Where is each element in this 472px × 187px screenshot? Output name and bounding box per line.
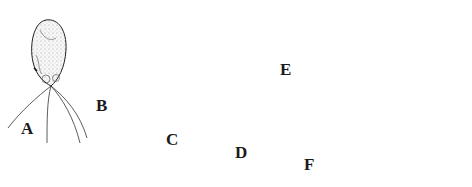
- panel-label-b: B: [96, 97, 107, 114]
- scientific-illustration: A B C D E F: [0, 0, 472, 187]
- panel-label-a: A: [21, 120, 33, 137]
- panel-label-d: D: [235, 144, 247, 161]
- panel-a-drawing: [8, 20, 87, 143]
- panel-label-f: F: [304, 156, 314, 173]
- panel-label-c: C: [166, 131, 178, 148]
- panel-label-e: E: [280, 61, 291, 78]
